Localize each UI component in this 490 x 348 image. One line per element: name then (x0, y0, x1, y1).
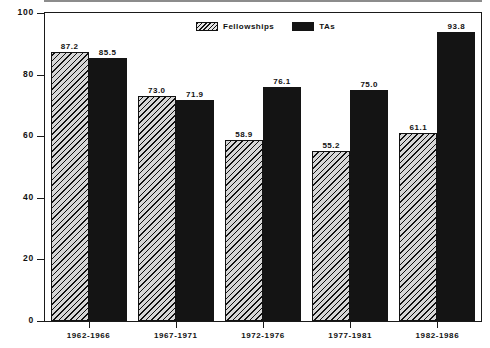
y-axis-tick-100: 100 (0, 13, 44, 14)
y-axis-tick-mark-0 (37, 321, 44, 322)
y-axis-tick-0: 0 (0, 321, 44, 322)
x-axis-tick-mark (176, 322, 177, 328)
bar-fellowships: 73.0 (138, 96, 176, 321)
bar-value-label: 71.9 (186, 90, 204, 99)
y-axis-tick-mark-20 (37, 259, 44, 260)
bar-value-label: 75.0 (360, 80, 378, 89)
bar-value-label: 55.2 (322, 141, 340, 150)
y-axis-tick-mark-60 (37, 136, 44, 137)
bar-group: 55.275.0 (307, 13, 394, 321)
bar-tas: 76.1 (263, 87, 301, 321)
x-axis-tick-label: 1982-1986 (416, 331, 460, 340)
y-axis-tick-label-0: 0 (28, 315, 34, 325)
bar-tas: 71.9 (176, 100, 214, 321)
bar-value-label: 87.2 (61, 42, 79, 51)
y-axis-tick-label-20: 20 (23, 253, 34, 263)
x-axis-tick-label: 1967-1971 (154, 331, 198, 340)
bar-value-label: 85.5 (99, 48, 117, 57)
y-axis-tick-label-40: 40 (23, 192, 34, 202)
bar-group: 87.285.5 (45, 13, 132, 321)
x-axis-tick-mark (89, 322, 90, 328)
top-rule-divider (44, 0, 482, 2)
y-axis-tick-80: 80 (0, 75, 44, 76)
y-axis-tick-mark-100 (37, 13, 44, 14)
x-axis-tick-mark (350, 322, 351, 328)
x-axis-tick-mark (437, 322, 438, 328)
bar-value-label: 76.1 (273, 77, 291, 86)
bar-tas: 75.0 (350, 90, 388, 321)
bar-fellowships: 61.1 (399, 133, 437, 321)
y-axis-tick-mark-80 (37, 75, 44, 76)
bar-fellowships: 87.2 (51, 52, 89, 321)
bar-value-label: 73.0 (148, 86, 166, 95)
bar-group: 73.071.9 (132, 13, 219, 321)
bar-value-label: 61.1 (410, 123, 428, 132)
x-axis-tick-label: 1977-1981 (328, 331, 372, 340)
bar-fellowships: 58.9 (225, 140, 263, 321)
bar-chart: Percent 100 80 60 40 20 0 Fellowships TA… (0, 0, 490, 348)
bar-group: 58.976.1 (219, 13, 306, 321)
y-axis-tick-label-80: 80 (23, 69, 34, 79)
bar-fellowships: 55.2 (312, 151, 350, 321)
bar-tas: 85.5 (89, 58, 127, 321)
x-axis: 1962-19661967-19711972-19761977-19811982… (45, 322, 481, 348)
bar-value-label: 58.9 (235, 130, 253, 139)
y-axis-tick-label-100: 100 (17, 7, 34, 17)
x-axis-tick-label: 1962-1966 (67, 331, 111, 340)
bar-value-label: 93.8 (448, 22, 466, 31)
y-axis-tick-60: 60 (0, 136, 44, 137)
y-axis-tick-mark-40 (37, 198, 44, 199)
bar-tas: 93.8 (437, 32, 475, 321)
x-axis-tick-label: 1972-1976 (241, 331, 285, 340)
y-axis-tick-label-60: 60 (23, 130, 34, 140)
bar-group: 61.193.8 (394, 13, 481, 321)
x-axis-tick-mark (263, 322, 264, 328)
y-axis-tick-20: 20 (0, 259, 44, 260)
bars-layer: 87.285.573.071.958.976.155.275.061.193.8 (45, 13, 481, 321)
y-axis-tick-40: 40 (0, 198, 44, 199)
